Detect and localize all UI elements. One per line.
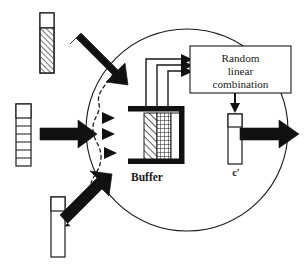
random-linear-combination-line3: combination: [213, 78, 269, 90]
buffer-bracket-top: [128, 106, 184, 112]
input-vector-top-cell-head: [40, 13, 54, 28]
buffer-column-plain: [171, 113, 180, 161]
buffer-bracket-bottom: [128, 159, 184, 165]
buffer-column-hatched: [144, 113, 157, 161]
input-vector-top-cell-body: [41, 28, 54, 72]
figure-canvas: Buffer Random linear combination c: [0, 0, 305, 271]
output-vector-cell-head: [228, 114, 242, 127]
output-vector-label: c′: [232, 167, 240, 178]
buffer-column-grid: [157, 113, 171, 161]
random-linear-combination-box: Random linear combination: [190, 46, 291, 93]
buffer-bracket-right: [179, 106, 185, 164]
buffer-label: Buffer: [131, 171, 163, 183]
input-vector-bottom: [51, 197, 65, 257]
random-linear-combination-line2: linear: [228, 65, 254, 77]
input-vector-middle: [16, 104, 31, 166]
random-linear-combination-line1: Random: [222, 52, 260, 64]
input-vector-bottom-cell-head: [51, 197, 65, 211]
figure-root: Buffer Random linear combination c: [0, 0, 305, 271]
input-vector-top: [40, 13, 54, 73]
input-vector-middle-cell-head: [16, 104, 31, 118]
